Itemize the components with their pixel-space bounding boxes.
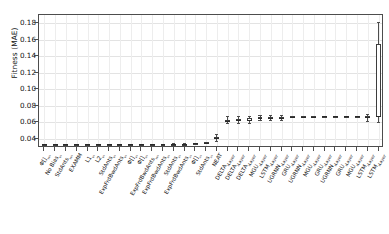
boxplot-box — [171, 15, 176, 148]
cap-upper — [215, 134, 218, 135]
boxplot-box — [161, 15, 166, 148]
y-tick-label: 0.04 — [0, 133, 36, 142]
boxplot-figure: Fitness (MAE) 0.040.060.080.100.120.140.… — [0, 0, 389, 234]
gridline-horizontal — [39, 23, 382, 24]
median-line — [117, 144, 122, 145]
cap-upper — [377, 22, 380, 23]
median-line — [355, 116, 360, 117]
boxplot-box — [236, 15, 241, 148]
y-tick-label: 0.16 — [0, 34, 36, 43]
boxplot-box — [96, 15, 101, 148]
x-tick-label: L1₆₀ — [84, 152, 96, 165]
cap-upper — [226, 116, 229, 117]
median-line — [225, 121, 230, 122]
boxplot-box — [214, 15, 219, 148]
median-line — [193, 143, 198, 144]
median-line — [344, 116, 349, 117]
y-tick-label: 0.14 — [0, 51, 36, 60]
whisker-upper — [378, 22, 379, 43]
median-line — [182, 144, 187, 145]
boxplot-box — [150, 15, 155, 148]
cap-lower — [269, 120, 272, 121]
boxplot-box — [117, 15, 122, 148]
median-line — [279, 118, 284, 119]
median-line — [311, 117, 316, 118]
median-line — [53, 144, 58, 145]
median-line — [161, 144, 166, 145]
gridline-horizontal — [39, 139, 382, 140]
boxplot-box — [74, 15, 79, 148]
cap-lower — [258, 120, 261, 121]
gridline-horizontal — [39, 56, 382, 57]
cap-upper — [366, 114, 369, 115]
boxplot-box — [290, 15, 295, 148]
cap-upper — [258, 115, 261, 116]
boxplot-box — [193, 15, 198, 148]
median-line — [74, 144, 79, 145]
boxplot-box — [225, 15, 230, 148]
y-tick-label: 0.18 — [0, 18, 36, 27]
cap-lower — [237, 123, 240, 124]
median-line — [290, 117, 295, 118]
cap-upper — [237, 116, 240, 117]
median-line — [42, 144, 47, 145]
boxplot-box — [268, 15, 273, 148]
y-tick-label: 0.06 — [0, 117, 36, 126]
boxplot-box — [311, 15, 316, 148]
median-line — [301, 117, 306, 118]
boxplot-box — [344, 15, 349, 148]
boxplot-box — [85, 15, 90, 148]
boxplot-box — [322, 15, 327, 148]
cap-lower — [248, 123, 251, 124]
boxplot-box — [333, 15, 338, 148]
boxplot-box — [204, 15, 209, 148]
cap-lower — [280, 120, 283, 121]
median-line — [247, 120, 252, 121]
median-line — [171, 144, 176, 145]
gridline-horizontal — [39, 106, 382, 107]
boxplot-box — [258, 15, 263, 148]
y-tick-label: 0.12 — [0, 67, 36, 76]
boxplot-box — [107, 15, 112, 148]
y-tick-label: 0.08 — [0, 100, 36, 109]
cap-lower — [226, 123, 229, 124]
median-line — [128, 144, 133, 145]
boxplot-box — [365, 15, 370, 148]
iqr-box — [376, 44, 381, 117]
plot-area — [38, 14, 383, 147]
boxplot-box — [139, 15, 144, 148]
cap-upper — [248, 116, 251, 117]
median-line — [333, 116, 338, 117]
median-line — [204, 143, 209, 144]
median-line — [85, 144, 90, 145]
median-line — [258, 118, 263, 119]
boxplot-box — [53, 15, 58, 148]
boxplot-box — [301, 15, 306, 148]
boxplot-box — [376, 15, 381, 148]
cap-upper — [269, 115, 272, 116]
cap-lower — [366, 121, 369, 122]
median-line — [365, 117, 370, 118]
boxplot-box — [128, 15, 133, 148]
gridline-horizontal — [39, 40, 382, 41]
boxplot-box — [42, 15, 47, 148]
median-line — [139, 144, 144, 145]
y-tick-label: 0.10 — [0, 84, 36, 93]
boxplot-box — [279, 15, 284, 148]
gridline-horizontal — [39, 73, 382, 74]
gridline-horizontal — [39, 89, 382, 90]
cap-lower — [215, 141, 218, 142]
median-line — [236, 120, 241, 121]
median-line — [376, 116, 381, 117]
boxplot-box — [182, 15, 187, 148]
median-line — [322, 116, 327, 117]
median-line — [107, 144, 112, 145]
median-line — [96, 144, 101, 145]
median-line — [214, 138, 219, 139]
cap-lower — [377, 122, 380, 123]
boxplot-box — [355, 15, 360, 148]
boxplot-box — [247, 15, 252, 148]
median-line — [63, 144, 68, 145]
median-line — [150, 144, 155, 145]
median-line — [268, 118, 273, 119]
